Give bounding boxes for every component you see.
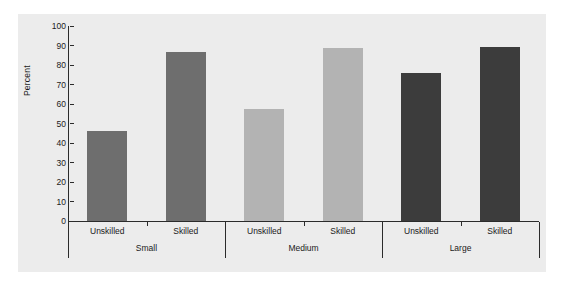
y-tick-label: 90 [57, 41, 66, 51]
x-category-label: Skilled [173, 226, 198, 236]
y-tick-label: 0 [61, 216, 66, 226]
y-tick-label: 20 [57, 177, 66, 187]
x-group-label-large: Large [450, 243, 472, 253]
x-group-label-small: Small [136, 243, 157, 253]
y-axis-title: Percent [22, 16, 36, 96]
y-tick-label: 30 [57, 158, 66, 168]
bar-small-unskilled [87, 131, 127, 221]
x-group-separator [539, 222, 540, 258]
x-category-label: Unskilled [404, 226, 439, 236]
bar-medium-unskilled [244, 109, 284, 221]
x-group-separator [382, 222, 383, 258]
x-minor-tick [304, 222, 305, 226]
y-tick-label: 40 [57, 138, 66, 148]
y-tick-label: 60 [57, 99, 66, 109]
bar-chart-figure: Percent 0102030405060708090100 Unskilled… [0, 0, 562, 284]
bar-medium-skilled [323, 48, 363, 221]
bar-small-skilled [166, 52, 206, 221]
bar-large-skilled [480, 47, 520, 221]
x-category-label: Unskilled [90, 226, 125, 236]
x-category-label: Skilled [330, 226, 355, 236]
x-category-label: Skilled [487, 226, 512, 236]
y-tick-label: 80 [57, 60, 66, 70]
bar-large-unskilled [401, 73, 441, 221]
x-group-label-medium: Medium [288, 243, 318, 253]
x-minor-tick [461, 222, 462, 226]
y-tick-label: 50 [57, 119, 66, 129]
y-tick-label: 10 [57, 197, 66, 207]
x-minor-tick [147, 222, 148, 226]
y-tick-label: 100 [52, 21, 66, 31]
x-group-separator [225, 222, 226, 258]
x-group-separator [68, 222, 69, 258]
y-tick-label: 70 [57, 80, 66, 90]
bars-area [68, 26, 539, 221]
x-category-label: Unskilled [247, 226, 282, 236]
